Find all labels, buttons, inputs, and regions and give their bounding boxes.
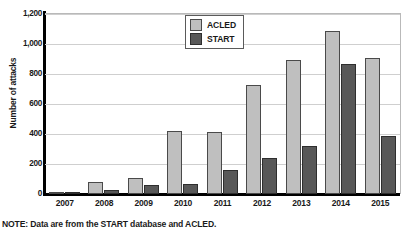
- bar-start-2008: [104, 190, 119, 194]
- bar-start-2007: [65, 192, 80, 194]
- x-tick-label-2008: 2008: [84, 198, 124, 208]
- bar-chart-figure: Number of attacks 02004006008001,0001,20…: [0, 0, 409, 236]
- x-tick-label-2009: 2009: [124, 198, 164, 208]
- bar-start-2010: [183, 184, 198, 194]
- bar-group: [124, 14, 163, 194]
- y-tick-label-1000: 1,000: [14, 39, 42, 48]
- bar-group: [84, 14, 123, 194]
- legend-swatch-acled: [190, 19, 202, 31]
- x-axis-tick-labels: 200720082009201020112012201320142015: [45, 198, 400, 214]
- bar-group: [321, 14, 360, 194]
- legend-label-start: START: [207, 34, 235, 44]
- bar-acled-2010: [167, 131, 182, 194]
- bar-start-2009: [144, 185, 159, 194]
- bar-start-2015: [381, 136, 396, 195]
- bar-group: [242, 14, 281, 194]
- bar-group: [45, 14, 84, 194]
- y-tick-label-600: 600: [14, 99, 42, 108]
- y-tick-label-800: 800: [14, 69, 42, 78]
- bar-group: [282, 14, 321, 194]
- x-tick-label-2013: 2013: [281, 198, 321, 208]
- y-tick-label-0: 0: [14, 189, 42, 198]
- bar-acled-2013: [286, 60, 301, 194]
- x-tick-label-2012: 2012: [242, 198, 282, 208]
- bar-acled-2011: [207, 132, 222, 194]
- bar-start-2013: [302, 146, 317, 194]
- x-tick-label-2007: 2007: [45, 198, 85, 208]
- x-tick-label-2010: 2010: [163, 198, 203, 208]
- bar-acled-2015: [365, 58, 380, 195]
- y-tick-label-200: 200: [14, 159, 42, 168]
- bar-acled-2007: [49, 192, 64, 194]
- bar-acled-2009: [128, 178, 143, 194]
- bar-group: [361, 14, 400, 194]
- y-tick-label-1200: 1,200: [14, 9, 42, 18]
- legend-label-acled: ACLED: [207, 20, 236, 30]
- legend-swatch-start: [190, 33, 202, 45]
- x-tick-label-2015: 2015: [360, 198, 400, 208]
- bar-acled-2012: [246, 85, 261, 194]
- figure-note: NOTE: Data are from the START database a…: [2, 219, 216, 229]
- y-axis-tick-labels: 02004006008001,0001,200: [14, 0, 42, 200]
- chart-legend: ACLED START: [185, 15, 244, 49]
- legend-entry-acled: ACLED: [190, 19, 236, 31]
- x-tick-label-2011: 2011: [203, 198, 243, 208]
- bar-acled-2008: [88, 182, 103, 194]
- bar-acled-2014: [325, 31, 340, 195]
- y-tick-label-400: 400: [14, 129, 42, 138]
- x-tick-label-2014: 2014: [321, 198, 361, 208]
- legend-entry-start: START: [190, 33, 236, 45]
- bar-start-2014: [341, 64, 356, 194]
- bar-start-2011: [223, 170, 238, 194]
- bar-start-2012: [262, 158, 277, 194]
